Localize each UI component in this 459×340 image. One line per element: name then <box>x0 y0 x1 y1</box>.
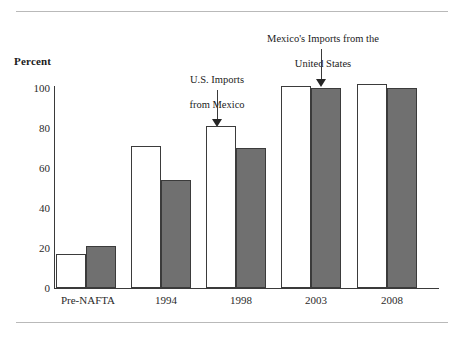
x-tick-pre-nafta: Pre-NAFTA <box>43 294 133 307</box>
x-axis-line <box>54 288 439 289</box>
y-tick-labels: 100 80 60 40 20 0 <box>0 0 50 340</box>
y-tick-80: 80 <box>4 123 50 134</box>
y-axis-line <box>54 86 55 289</box>
annotation-us-imports-arrow-icon <box>202 90 232 127</box>
annotation-mexico-imports-arrow-icon <box>306 49 336 87</box>
bar-pre-nafta-us-imports <box>56 254 86 288</box>
y-tick-100: 100 <box>4 83 50 94</box>
bar-2003-us-imports <box>281 86 311 288</box>
bar-1998-us-imports <box>206 126 236 288</box>
bar-2008-mexico-imports <box>387 88 417 288</box>
bar-chart-figure: Percent 100 80 60 40 20 0 Pre-NAFTA 1994… <box>0 0 459 340</box>
plot-area: 100 80 60 40 20 0 Pre-NAFTA 1994 1998 20… <box>0 0 459 340</box>
bar-2008-us-imports <box>357 84 387 288</box>
x-tick-2008: 2008 <box>347 294 437 307</box>
bar-1994-mexico-imports <box>161 180 191 288</box>
y-tick-40: 40 <box>4 203 50 214</box>
bar-2003-mexico-imports <box>311 88 341 288</box>
bar-1994-us-imports <box>131 146 161 288</box>
y-tick-60: 60 <box>4 163 50 174</box>
annotation-mexico-imports-line1: Mexico's Imports from the <box>243 33 403 46</box>
bar-1998-mexico-imports <box>236 148 266 288</box>
bar-pre-nafta-mexico-imports <box>86 246 116 288</box>
y-tick-20: 20 <box>4 243 50 254</box>
y-tick-0: 0 <box>4 283 50 294</box>
